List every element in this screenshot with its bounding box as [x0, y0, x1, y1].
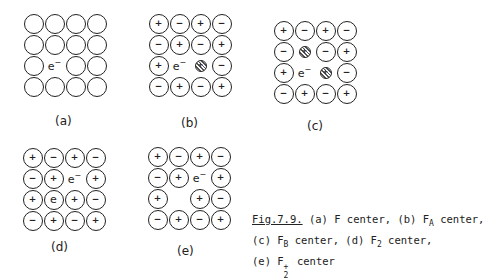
cation-ion: +: [190, 147, 210, 167]
cation-ion: +: [86, 211, 106, 231]
lattice-site: [23, 76, 44, 97]
lattice-site: +: [168, 167, 189, 188]
lattice-site: −: [336, 20, 357, 41]
lattice-site: [23, 55, 44, 76]
anion-ion: −: [23, 211, 43, 231]
lattice-site: +: [43, 210, 64, 231]
lattice-site: +: [22, 147, 43, 168]
lattice-site: −: [22, 168, 43, 189]
lattice-site: −: [148, 34, 169, 55]
ion: [45, 77, 65, 97]
lattice-site: +: [211, 34, 232, 55]
lattice-site: +: [210, 209, 231, 230]
lattice-site: [86, 76, 107, 97]
impurity-cation: +: [299, 46, 311, 58]
lattice-site: −: [336, 62, 357, 83]
lattice-site: +: [64, 189, 85, 210]
lattice-site: +: [147, 146, 168, 167]
cation-ion: +: [44, 169, 64, 189]
lattice-site: −: [211, 13, 232, 34]
panel-label: (a): [55, 114, 72, 128]
lattice-site: −: [210, 188, 231, 209]
lattice-site: −: [147, 167, 168, 188]
lattice-grid: +−+−−+−++e−+−−+−+: [273, 20, 357, 104]
anion-ion: −: [44, 148, 64, 168]
lattice-site: −: [190, 34, 211, 55]
trapped-electron: e−: [68, 171, 81, 186]
caption-line-1: Fig.7.9. (a) F center, (b) FA center,: [252, 211, 484, 232]
ion: [66, 56, 86, 76]
lattice-site: +: [189, 188, 210, 209]
lattice-site: e−: [294, 62, 315, 83]
cation-ion: +: [23, 148, 43, 168]
ion: [87, 14, 107, 34]
lattice-site: [65, 13, 86, 34]
lattice-site: [65, 76, 86, 97]
lattice-site: −: [315, 83, 336, 104]
anion-ion: −: [316, 42, 336, 62]
cation-ion: +: [149, 56, 169, 76]
cation-ion: +: [337, 42, 357, 62]
cation-ion: +: [295, 84, 315, 104]
lattice-site: −: [148, 76, 169, 97]
lattice-site: −: [64, 210, 85, 231]
electron-in-site: e: [44, 190, 64, 210]
lattice-site: +: [169, 34, 190, 55]
figure-number: Fig.7.9.: [252, 213, 303, 225]
ion: [87, 56, 107, 76]
caption-line-2: (c) FB center, (d) F2 center,: [252, 232, 484, 253]
cation-ion: +: [65, 148, 85, 168]
ion: [24, 35, 44, 55]
cation-ion: +: [274, 63, 294, 83]
lattice-site: −: [273, 83, 294, 104]
cation-ion: +: [190, 189, 210, 209]
lattice-site: +: [190, 55, 211, 76]
lattice-site: +: [22, 189, 43, 210]
ion: [66, 14, 86, 34]
anion-ion: −: [211, 147, 231, 167]
lattice-site: [44, 34, 65, 55]
vacancy: [168, 188, 189, 209]
anion-ion: −: [295, 21, 315, 41]
lattice-site: +: [64, 147, 85, 168]
cation-ion: +: [212, 77, 232, 97]
ion: [87, 77, 107, 97]
lattice-site: [23, 13, 44, 34]
lattice-site: +: [211, 76, 232, 97]
lattice-grid: e−: [23, 13, 107, 97]
impurity-cation: +: [320, 67, 332, 79]
cation-ion: +: [211, 210, 231, 230]
cation-ion: +: [274, 21, 294, 41]
anion-ion: −: [212, 14, 232, 34]
lattice-site: +: [148, 13, 169, 34]
lattice-site: +: [85, 210, 106, 231]
cation-ion: +: [211, 168, 231, 188]
ion: [24, 56, 44, 76]
lattice-site: e−: [189, 167, 210, 188]
trapped-electron: e−: [298, 65, 311, 80]
lattice-site: [86, 34, 107, 55]
lattice-site: −: [294, 20, 315, 41]
cation-ion: +: [23, 190, 43, 210]
anion-ion: −: [191, 77, 211, 97]
lattice-grid: +−+−−+−++e−+−−+−+: [148, 13, 232, 97]
anion-ion: −: [86, 148, 106, 168]
anion-ion: −: [149, 35, 169, 55]
lattice-grid: +−+−−+e−++e+−−+−+: [22, 147, 106, 231]
lattice-site: −: [85, 147, 106, 168]
lattice-site: +: [169, 76, 190, 97]
lattice-site: +: [273, 20, 294, 41]
ion: [24, 77, 44, 97]
trapped-electron: e−: [173, 58, 186, 73]
lattice-site: [23, 34, 44, 55]
lattice-grid: +−+−−+e−+++−−+−+: [147, 146, 231, 230]
lattice-site: +: [336, 41, 357, 62]
cation-ion: +: [169, 168, 189, 188]
lattice-site: +: [273, 62, 294, 83]
lattice-site: +: [294, 41, 315, 62]
cation-ion: +: [148, 147, 168, 167]
cation-ion: +: [337, 84, 357, 104]
anion-ion: −: [274, 84, 294, 104]
impurity-cation: +: [195, 60, 207, 72]
lattice-site: e−: [64, 168, 85, 189]
